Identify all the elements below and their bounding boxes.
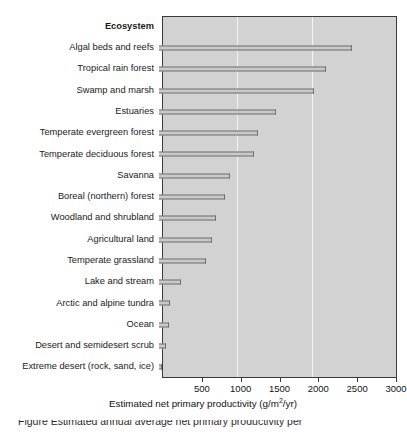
bar-cell [158, 144, 393, 165]
category-label: Desert and semidesert scrub [0, 341, 158, 351]
x-axis-tick [396, 378, 397, 382]
chart-row: Boreal (northern) forest [0, 186, 406, 207]
bar-cell [158, 293, 393, 314]
data-bar [159, 131, 258, 136]
category-label: Temperate evergreen forest [0, 128, 158, 138]
data-bar [159, 322, 169, 327]
category-header-label: Ecosystem [0, 22, 158, 32]
data-bar [159, 45, 352, 50]
data-bar [159, 173, 230, 178]
x-axis-tick-label: 1000 [230, 383, 251, 394]
category-header-spacer [158, 16, 393, 37]
category-label: Temperate grassland [0, 256, 158, 266]
x-axis-tick [202, 378, 203, 382]
bar-cell [158, 59, 393, 80]
data-bar [159, 216, 216, 221]
category-label: Temperate deciduous forest [0, 150, 158, 160]
chart-row: Temperate evergreen forest [0, 122, 406, 143]
x-axis-tick [357, 378, 358, 382]
data-bar [159, 344, 166, 349]
data-bar [159, 365, 162, 370]
bar-cell [158, 250, 393, 271]
chart-row: Lake and stream [0, 272, 406, 293]
category-header-row: Ecosystem [0, 16, 406, 37]
chart-row: Ocean [0, 314, 406, 335]
bar-cell [158, 186, 393, 207]
x-axis-title-after: /yr) [283, 398, 297, 409]
category-label: Savanna [0, 171, 158, 181]
chart-row: Desert and semidesert scrub [0, 335, 406, 356]
category-label: Tropical rain forest [0, 64, 158, 74]
data-bar [159, 237, 212, 242]
bar-cell [158, 272, 393, 293]
x-axis-tick [280, 378, 281, 382]
x-axis-tick-label: 1500 [269, 383, 290, 394]
category-label: Ocean [0, 320, 158, 330]
category-label: Extreme desert (rock, sand, ice) [0, 362, 158, 372]
bar-cell [158, 101, 393, 122]
bar-cell [158, 357, 393, 378]
chart-row: Savanna [0, 165, 406, 186]
data-bar [159, 258, 206, 263]
bar-cell [158, 208, 393, 229]
figure-caption-text: Figure Estimated annual average net prim… [18, 420, 302, 427]
category-label: Swamp and marsh [0, 86, 158, 96]
x-axis-tick-label: 2000 [308, 383, 329, 394]
chart-row: Estuaries [0, 101, 406, 122]
chart-row: Temperate grassland [0, 250, 406, 271]
chart-row: Tropical rain forest [0, 59, 406, 80]
x-axis-tick-label: 2500 [347, 383, 368, 394]
data-bar [159, 301, 170, 306]
chart-rows: EcosystemAlgal beds and reefsTropical ra… [0, 16, 406, 378]
data-bar [159, 194, 225, 199]
category-label: Algal beds and reefs [0, 43, 158, 53]
bar-cell [158, 80, 393, 101]
chart-row: Temperate deciduous forest [0, 144, 406, 165]
category-label: Lake and stream [0, 277, 158, 287]
category-label: Estuaries [0, 107, 158, 117]
category-label: Woodland and shrubland [0, 213, 158, 223]
x-axis-tick [318, 378, 319, 382]
x-axis-title-before: Estimated net primary productivity (g/m [109, 398, 279, 409]
x-axis-tick-label: 3000 [385, 383, 406, 394]
data-bar [159, 152, 254, 157]
bar-cell [158, 122, 393, 143]
category-label: Boreal (northern) forest [0, 192, 158, 202]
bar-cell [158, 229, 393, 250]
bar-cell [158, 165, 393, 186]
chart-row: Agricultural land [0, 229, 406, 250]
chart-row: Extreme desert (rock, sand, ice) [0, 357, 406, 378]
category-label: Agricultural land [0, 235, 158, 245]
chart-row: Swamp and marsh [0, 80, 406, 101]
category-label: Arctic and alpine tundra [0, 299, 158, 309]
x-axis-tick [241, 378, 242, 382]
data-bar [159, 109, 276, 114]
data-bar [159, 88, 314, 93]
x-axis-tick-label: 500 [194, 383, 210, 394]
bar-cell [158, 314, 393, 335]
chart-row: Algal beds and reefs [0, 37, 406, 58]
chart-row: Woodland and shrubland [0, 208, 406, 229]
x-axis: 50010001500200025003000 [162, 378, 397, 398]
bar-cell [158, 37, 393, 58]
x-axis-title: Estimated net primary productivity (g/m2… [0, 398, 406, 409]
chart-row: Arctic and alpine tundra [0, 293, 406, 314]
data-bar [159, 67, 326, 72]
bar-cell [158, 335, 393, 356]
data-bar [159, 280, 181, 285]
figure-caption: Figure Estimated annual average net prim… [0, 420, 406, 438]
